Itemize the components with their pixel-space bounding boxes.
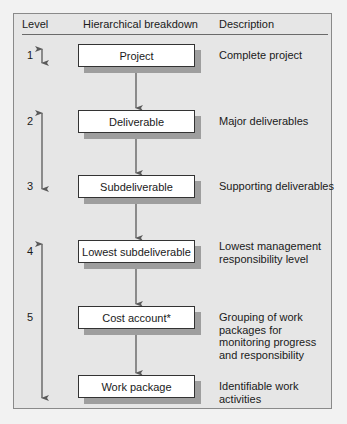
description-line: monitoring progress [219,336,316,349]
level-number: 5 [27,311,33,324]
description: Grouping of work packages for monitoring… [219,311,316,361]
description-line: packages for [219,324,316,337]
level-number: 1 [27,49,33,62]
description-line: activities [219,393,299,406]
node-project: Project [78,44,195,67]
node-work-package: Work package [78,375,195,398]
description-line: responsibility level [219,253,321,266]
node-subdeliverable: Subdeliverable [78,175,195,198]
level-number: 3 [27,180,33,193]
description: Supporting deliverables [219,180,334,193]
node-cost-account: Cost account* [78,306,195,329]
description: Major deliverables [219,115,308,128]
description: Identifiable work activities [219,380,299,405]
description-line: Identifiable work [219,380,299,393]
description: Lowest management responsibility level [219,240,321,265]
description-line: Grouping of work [219,311,316,324]
level-number: 2 [27,115,33,128]
level-number: 4 [27,245,33,258]
node-deliverable: Deliverable [78,110,195,133]
description: Complete project [219,49,302,62]
description-line: and responsibility [219,349,316,362]
node-lowest-subdeliverable: Lowest subdeliverable [78,240,195,263]
description-line: Lowest management [219,240,321,253]
